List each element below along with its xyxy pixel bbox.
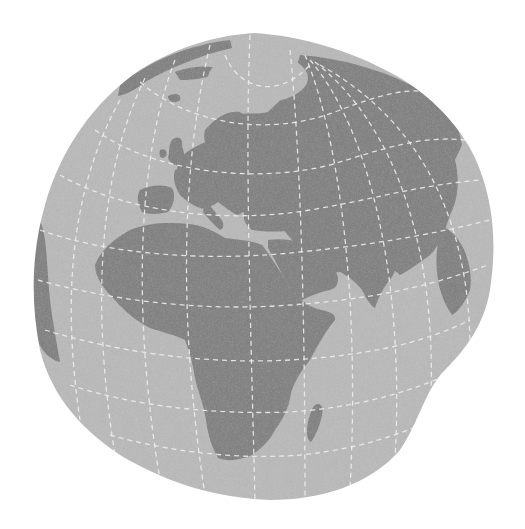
land-iberia xyxy=(138,186,174,214)
globe-map xyxy=(0,0,525,529)
